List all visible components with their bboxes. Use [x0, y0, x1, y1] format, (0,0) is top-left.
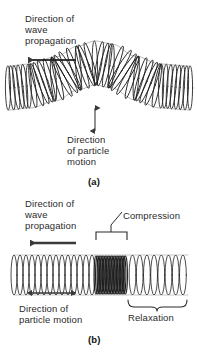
panel-letter-b: (b) — [88, 334, 101, 345]
relaxation-label: Relaxation — [128, 312, 174, 323]
panel-letter-a: (a) — [88, 176, 100, 187]
relaxation-brace — [128, 300, 187, 311]
wave-propagation-label-a: Direction of wave propagation — [25, 13, 76, 47]
compression-band — [94, 256, 127, 294]
particle-motion-label-a: Direction of particle motion — [67, 134, 109, 168]
compression-bracket — [96, 232, 127, 240]
particle-motion-label-b: Direction of particle motion — [19, 303, 82, 325]
transverse-spring-coil — [5, 41, 192, 110]
compression-label: Compression — [123, 210, 180, 221]
compression-leader-diagonal — [111, 212, 122, 225]
wave-diagram-figure: Direction of wave propagation Direction … — [0, 0, 197, 357]
wave-propagation-label-b: Direction of wave propagation — [25, 198, 76, 232]
